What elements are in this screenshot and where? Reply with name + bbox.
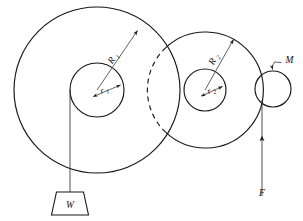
gear2-outer-radius-arrow [205, 40, 234, 91]
moment-label: M [285, 55, 295, 65]
gear1-outer-radius-arrow [97, 31, 138, 91]
gear2-outer-radius-subscript: 2 [214, 54, 222, 60]
gear1-outer-radius-subscript: 1 [114, 53, 122, 60]
diagram-canvas: R 1 r 1 R 2 r 2 M F W [0, 0, 303, 221]
weight-label: W [66, 200, 75, 210]
force-label: F [258, 188, 265, 198]
gear2-inner-radius-label-group: r 2 [205, 84, 217, 98]
gear1-inner-radius-label-group: r 1 [98, 83, 110, 97]
gear3-circle [255, 71, 291, 107]
gear2-outer-radius-label-group: R 2 [206, 52, 222, 68]
gear1-inner-radius-subscript: 1 [105, 87, 111, 95]
gear-train-diagram: R 1 r 1 R 2 r 2 M F W [0, 0, 303, 221]
gear2-inner-radius-subscript: 2 [212, 87, 218, 95]
moment-arrow [272, 62, 281, 70]
gear2-outer-circle-hidden [147, 48, 165, 133]
